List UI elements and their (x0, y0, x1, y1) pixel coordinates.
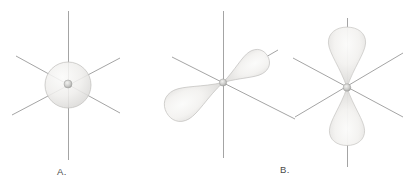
panel-label-b: B. (280, 164, 290, 175)
nucleus-dot (343, 84, 351, 92)
p-orbital-vertical-figure (293, 18, 403, 167)
p-orbital-diagonal-figure (159, 11, 295, 158)
p-orbital-lobe-lower-left (159, 68, 231, 127)
s-orbital-figure (12, 11, 120, 160)
p-orbital-lobe-lower (329, 88, 364, 146)
orbital-diagram-canvas (0, 0, 416, 189)
p-orbital-lobe-upper-right (216, 45, 274, 94)
nucleus-dot (64, 80, 72, 88)
orbital-diagram: A. B. (0, 0, 416, 189)
nucleus-dot (219, 79, 226, 86)
panel-label-a: A. (57, 166, 67, 177)
